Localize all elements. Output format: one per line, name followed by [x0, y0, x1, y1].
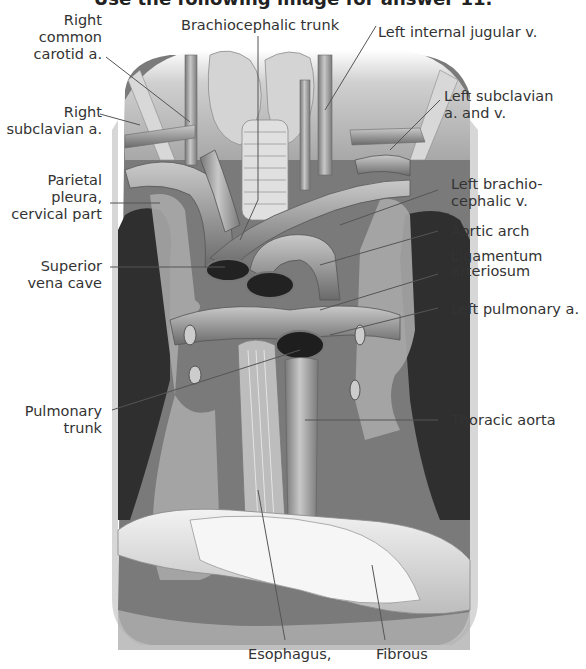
label-parietal-pleura: Parietal pleura, cervical part	[0, 172, 102, 223]
label-aortic-arch: Aortic arch	[451, 223, 529, 240]
label-superior-vena-cava: Superior vena cave	[0, 258, 102, 292]
label-line: vena cave	[0, 275, 102, 292]
label-right-common-carotid: Right common carotid a.	[20, 12, 102, 63]
label-line: Pulmonary	[0, 403, 102, 420]
label-pulmonary-trunk: Pulmonary trunk	[0, 403, 102, 437]
label-esophagus: Esophagus,	[248, 646, 331, 663]
label-left-internal-jugular: Left internal jugular v.	[378, 24, 537, 41]
label-ligamentum-arteriosum: Ligamentum arteriosum	[451, 249, 542, 279]
label-line: Left brachio-	[451, 176, 543, 193]
label-left-pulmonary: Left pulmonary a.	[451, 301, 579, 318]
label-brachiocephalic-trunk: Brachiocephalic trunk	[160, 17, 360, 34]
label-line: Right	[0, 104, 102, 121]
label-line: cervical part	[0, 206, 102, 223]
label-line: Left internal jugular v.	[378, 24, 537, 41]
label-right-subclavian: Right subclavian a.	[0, 104, 102, 138]
label-line: Esophagus,	[248, 646, 331, 663]
label-line: Thoracic aorta	[451, 412, 556, 429]
label-line: a. and v.	[444, 105, 553, 122]
label-line: cephalic v.	[451, 193, 543, 210]
label-left-brachiocephalic: Left brachio- cephalic v.	[451, 176, 543, 210]
label-thoracic-aorta: Thoracic aorta	[451, 412, 556, 429]
label-line: Brachiocephalic trunk	[160, 17, 360, 34]
label-line: Ligamentum	[451, 249, 542, 264]
label-fibrous: Fibrous	[376, 646, 428, 663]
label-line: Parietal	[0, 172, 102, 189]
label-line: Right	[20, 12, 102, 29]
label-line: Left subclavian	[444, 88, 553, 105]
label-line: carotid a.	[20, 46, 102, 63]
label-left-subclavian: Left subclavian a. and v.	[444, 88, 553, 122]
label-line: Superior	[0, 258, 102, 275]
label-line: common	[20, 29, 102, 46]
label-line: pleura,	[0, 189, 102, 206]
label-line: trunk	[0, 420, 102, 437]
label-line: subclavian a.	[0, 121, 102, 138]
label-line: Aortic arch	[451, 223, 529, 240]
label-line: Left pulmonary a.	[451, 301, 579, 318]
label-line: Fibrous	[376, 646, 428, 663]
label-line: arteriosum	[451, 264, 542, 279]
